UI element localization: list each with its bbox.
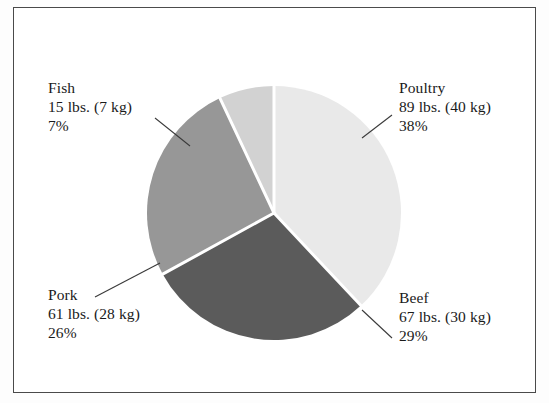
leader-line-beef [362, 310, 392, 338]
pie-label-beef-weight: 67 lbs. (30 kg) [399, 307, 491, 326]
pie-label-fish-name: Fish [48, 78, 132, 97]
pie-label-pork-name: Pork [48, 285, 140, 304]
pie-label-fish: Fish 15 lbs. (7 kg) 7% [48, 78, 132, 135]
pie-label-pork-weight: 61 lbs. (28 kg) [48, 304, 140, 323]
pie-label-fish-weight: 15 lbs. (7 kg) [48, 97, 132, 116]
pie-label-poultry-name: Poultry [399, 78, 491, 97]
pie-label-poultry-weight: 89 lbs. (40 kg) [399, 97, 491, 116]
pie-label-beef-percent: 29% [399, 326, 491, 345]
pie-label-pork: Pork 61 lbs. (28 kg) 26% [48, 285, 140, 342]
figure-container: Fish 15 lbs. (7 kg) 7% Poultry 89 lbs. (… [0, 0, 549, 403]
pie-label-fish-percent: 7% [48, 116, 132, 135]
pie-label-beef: Beef 67 lbs. (30 kg) 29% [399, 288, 491, 345]
pie-label-poultry-percent: 38% [399, 116, 491, 135]
pie-label-poultry: Poultry 89 lbs. (40 kg) 38% [399, 78, 491, 135]
pie-label-pork-percent: 26% [48, 323, 140, 342]
pie-label-beef-name: Beef [399, 288, 491, 307]
